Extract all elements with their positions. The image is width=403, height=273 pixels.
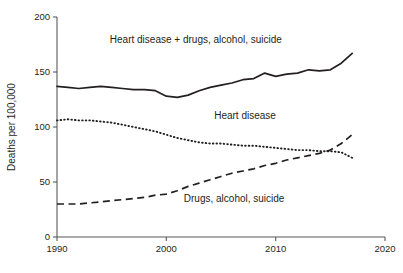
y-tick-label: 200 <box>34 11 50 22</box>
x-tick-label: 2000 <box>156 243 177 254</box>
y-tick-label: 50 <box>39 176 50 187</box>
series-line-1 <box>57 119 352 158</box>
series-line-0 <box>57 53 352 97</box>
series-annotation-2: Drugs, alcohol, suicide <box>184 193 285 204</box>
x-tick-label: 2010 <box>265 243 286 254</box>
series-annotation-0: Heart disease + drugs, alcohol, suicide <box>110 34 282 45</box>
series-annotation-1: Heart disease <box>214 110 276 121</box>
y-tick-label: 150 <box>34 66 50 77</box>
line-chart: 0501001502001990200020102020Deaths per 1… <box>0 0 403 273</box>
y-tick-label: 100 <box>34 121 50 132</box>
x-tick-label: 1990 <box>46 243 67 254</box>
chart-container: 0501001502001990200020102020Deaths per 1… <box>0 0 403 273</box>
y-tick-label: 0 <box>45 231 50 242</box>
y-axis-title: Deaths per 100,000 <box>6 83 17 171</box>
x-tick-label: 2020 <box>374 243 395 254</box>
